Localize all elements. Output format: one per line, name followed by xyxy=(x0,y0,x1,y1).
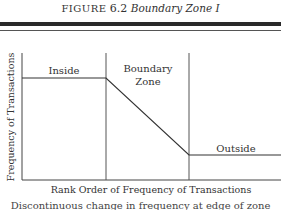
label-boundary: Boundary xyxy=(123,63,172,74)
figure-caption: Discontinuous change in frequency at edg… xyxy=(0,200,281,210)
label-zone: Zone xyxy=(135,76,160,87)
label-inside: Inside xyxy=(48,65,79,76)
label-outside: Outside xyxy=(216,143,255,154)
chart: Inside Boundary Zone Outside Rank Order … xyxy=(0,0,281,210)
x-axis-label: Rank Order of Frequency of Transactions xyxy=(51,184,252,195)
y-axis-label: Frequency of Transactions xyxy=(5,53,16,182)
